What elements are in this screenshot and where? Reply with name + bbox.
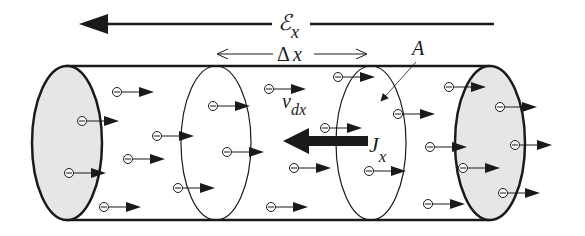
velocity-arrow-icon xyxy=(179,131,194,141)
delta-x-label: Δx xyxy=(277,43,302,65)
electron xyxy=(365,166,407,176)
cross-section-left xyxy=(181,66,251,220)
velocity-arrow-icon xyxy=(200,183,215,193)
velocity-arrow-icon xyxy=(126,202,141,212)
electron xyxy=(334,72,376,82)
velocity-arrow-icon xyxy=(450,199,465,209)
velocity-arrow-icon xyxy=(150,154,165,164)
area-label: A xyxy=(410,37,425,59)
velocity-arrow-icon xyxy=(525,188,540,198)
velocity-arrow-icon xyxy=(347,123,362,133)
velocity-arrow-icon xyxy=(249,147,264,157)
electron xyxy=(100,202,142,212)
velocity-arrow-icon xyxy=(360,72,375,82)
velocity-arrow-icon xyxy=(537,140,552,150)
electron xyxy=(209,101,251,111)
current-density-label: Jx xyxy=(369,132,387,166)
velocity-arrow-icon xyxy=(316,163,331,173)
velocity-arrow-icon xyxy=(522,102,537,112)
velocity-arrow-icon xyxy=(139,87,154,97)
electron xyxy=(174,183,216,193)
field-label: ℰx xyxy=(278,10,299,42)
velocity-arrow-icon xyxy=(420,109,435,119)
electron xyxy=(267,202,309,212)
electron xyxy=(394,109,436,119)
velocity-arrow-icon xyxy=(104,116,119,126)
left-end-cap xyxy=(32,66,102,220)
electron xyxy=(321,123,363,133)
velocity-arrow-icon xyxy=(291,84,306,94)
electron xyxy=(290,163,332,173)
electron xyxy=(223,147,265,157)
drift-velocity-label: vdx xyxy=(282,90,306,118)
electron xyxy=(113,87,155,97)
conductor-diagram: ℰx Δx A vdx Jx xyxy=(0,0,585,236)
velocity-arrow-icon xyxy=(293,202,308,212)
electron xyxy=(511,140,553,150)
electron xyxy=(124,154,166,164)
electron xyxy=(424,199,466,209)
electron xyxy=(153,131,195,141)
